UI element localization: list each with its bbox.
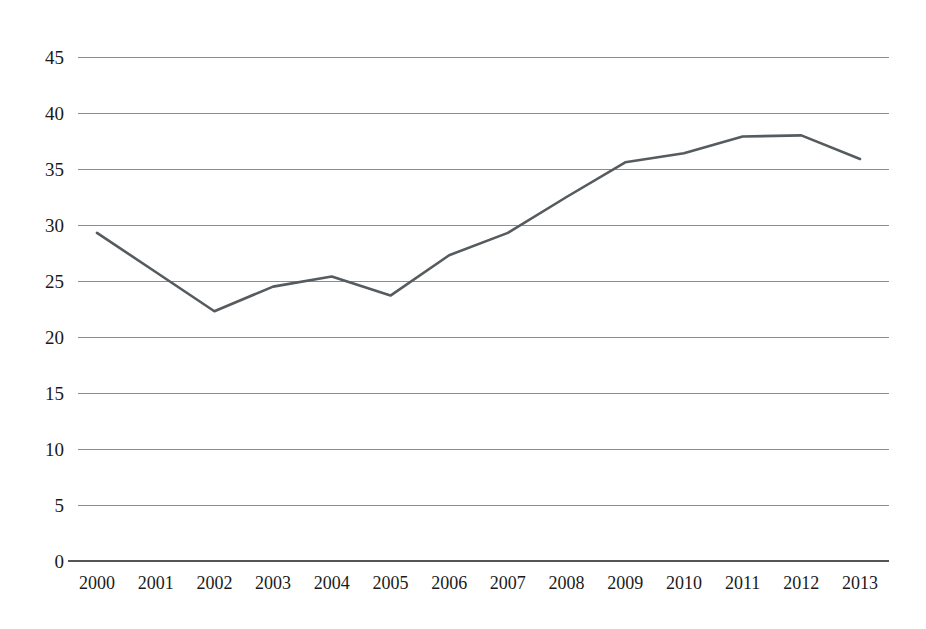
- y-axis-tick-label: 30: [45, 215, 64, 236]
- line-chart: 051015202530354045 200020012002200320042…: [0, 0, 926, 629]
- x-axis-tick-label: 2005: [372, 573, 408, 593]
- x-axis-tick-label: 2002: [196, 573, 232, 593]
- y-axis-tick-label: 20: [45, 327, 64, 348]
- x-axis-tick-label: 2000: [79, 573, 115, 593]
- y-axis-tick-label: 5: [55, 495, 65, 516]
- y-axis-tick-label: 15: [45, 383, 64, 404]
- x-axis-tick-label: 2003: [255, 573, 291, 593]
- x-axis-tick-label: 2012: [783, 573, 819, 593]
- y-axis-tick-label: 40: [45, 103, 64, 124]
- chart-background: [0, 0, 926, 629]
- x-axis-tick-label: 2013: [842, 573, 878, 593]
- x-axis-tick-label: 2010: [666, 573, 702, 593]
- x-axis-tick-label: 2004: [314, 573, 350, 593]
- x-axis-tick-label: 2001: [138, 573, 174, 593]
- y-axis-tick-label: 0: [55, 551, 65, 572]
- y-axis-tick-label: 35: [45, 159, 64, 180]
- chart-canvas: 051015202530354045 200020012002200320042…: [0, 0, 926, 629]
- y-axis-tick-label: 25: [45, 271, 64, 292]
- x-axis-tick-label: 2008: [549, 573, 585, 593]
- x-axis-tick-label: 2009: [607, 573, 643, 593]
- y-axis-tick-label: 10: [45, 439, 64, 460]
- x-axis-tick-label: 2011: [725, 573, 760, 593]
- x-axis-tick-label: 2007: [490, 573, 526, 593]
- x-axis-tick-label: 2006: [431, 573, 467, 593]
- y-axis-tick-label: 45: [45, 47, 64, 68]
